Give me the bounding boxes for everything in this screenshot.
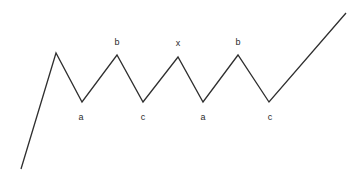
label-x: x [176, 39, 181, 48]
label-b-second: b [235, 38, 240, 47]
wave-polyline [21, 13, 346, 169]
label-c-second: c [268, 113, 273, 122]
label-c-first: c [141, 113, 146, 122]
label-a-second: a [200, 113, 205, 122]
label-a-first: a [78, 113, 83, 122]
wave-diagram: a b c x a b c [0, 0, 364, 181]
label-b-first: b [114, 38, 119, 47]
zigzag-wave-chart [0, 0, 364, 181]
